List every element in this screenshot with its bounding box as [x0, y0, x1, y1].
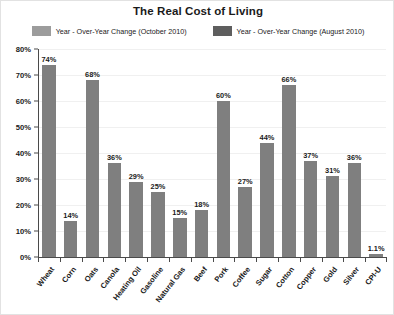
bar[interactable]: 60%	[217, 101, 231, 257]
x-tick-slot	[322, 258, 344, 262]
x-label-slot: Wheat	[38, 263, 60, 315]
bar-value-label: 74%	[41, 55, 56, 64]
legend-swatch-august	[213, 26, 232, 36]
x-axis-labels: WheatCornOatsCanolaHeating OilGasolineNa…	[38, 263, 387, 315]
x-tick-slot	[147, 258, 169, 262]
x-axis-label: CPI-U	[363, 265, 383, 287]
x-axis-tick-mark	[60, 258, 61, 262]
bar[interactable]: 31%	[326, 176, 340, 257]
y-axis-tick-label: 0%	[20, 253, 34, 262]
bar-value-label: 29%	[129, 172, 144, 181]
y-axis-tick: 80%	[16, 45, 38, 54]
x-label-slot: Beef	[191, 263, 213, 315]
y-axis-tick-label: 60%	[16, 97, 34, 106]
bar-value-label: 68%	[85, 70, 100, 79]
x-axis-tick-mark	[322, 258, 323, 262]
x-axis-label: Oats	[82, 265, 99, 284]
bar[interactable]: 44%	[260, 143, 274, 257]
bar-value-label: 25%	[151, 182, 166, 191]
bar[interactable]: 66%	[282, 85, 296, 257]
bar[interactable]: 37%	[304, 161, 318, 257]
bar-slot: 66%	[278, 49, 300, 257]
bar[interactable]: 15%	[173, 218, 187, 257]
x-axis-tick-mark	[82, 258, 83, 262]
bar-slot: 1.1%	[365, 49, 387, 257]
y-axis-tick: 60%	[16, 97, 38, 106]
x-axis-tick-mark	[38, 258, 39, 262]
x-label-slot: Pork	[213, 263, 235, 315]
chart-legend: Year - Over-Year Change (October 2010) Y…	[1, 26, 394, 36]
y-axis-tick: 20%	[16, 201, 38, 210]
bar-slot: 29%	[125, 49, 147, 257]
y-axis-tick-label: 20%	[16, 201, 34, 210]
x-axis-tick-mark	[169, 258, 170, 262]
x-label-slot: Sugar	[256, 263, 278, 315]
bar-slot: 14%	[60, 49, 82, 257]
x-axis-label: Wheat	[35, 265, 56, 288]
bar-slot: 44%	[256, 49, 278, 257]
x-tick-slot	[103, 258, 125, 262]
legend-label-october: Year - Over-Year Change (October 2010)	[56, 27, 187, 36]
bar[interactable]: 27%	[238, 187, 252, 257]
y-axis-tick-label: 40%	[16, 149, 34, 158]
x-axis-ticks	[38, 258, 387, 262]
bar[interactable]: 36%	[348, 163, 362, 257]
bar[interactable]: 74%	[42, 65, 56, 257]
legend-item-october[interactable]: Year - Over-Year Change (October 2010)	[32, 26, 187, 36]
bar[interactable]: 25%	[151, 192, 165, 257]
x-label-slot: Corn	[60, 263, 82, 315]
y-axis-tick-label: 80%	[16, 45, 34, 54]
x-axis-label: Sugar	[254, 265, 274, 288]
bar-value-label: 18%	[194, 200, 209, 209]
x-axis-label: Gold	[322, 265, 340, 284]
y-axis-tick: 70%	[16, 71, 38, 80]
bar-value-label: 1.1%	[368, 244, 385, 253]
bar[interactable]: 36%	[108, 163, 122, 257]
x-label-slot: Coffee	[234, 263, 256, 315]
bar[interactable]: 68%	[86, 80, 100, 257]
y-axis: 80%70%60%50%40%30%20%10%0%	[1, 49, 38, 258]
x-tick-slot	[60, 258, 82, 262]
chart-container: The Real Cost of Living Year - Over-Year…	[0, 0, 394, 315]
bar-slot: 37%	[300, 49, 322, 257]
x-axis-label: Coffee	[231, 265, 253, 289]
bar[interactable]: 14%	[64, 221, 78, 257]
y-axis-tick: 0%	[20, 253, 38, 262]
bar-value-label: 36%	[107, 153, 122, 162]
bar-value-label: 15%	[172, 208, 187, 217]
x-tick-slot	[256, 258, 278, 262]
bar-value-label: 31%	[325, 166, 340, 175]
bar-value-label: 44%	[260, 133, 275, 142]
bar[interactable]: 18%	[195, 210, 209, 257]
y-axis-tick: 30%	[16, 175, 38, 184]
bar[interactable]: 1.1%	[369, 254, 383, 257]
bar-slot: 15%	[169, 49, 191, 257]
bar-slot: 36%	[103, 49, 125, 257]
x-tick-end	[386, 258, 387, 262]
x-axis-tick-mark	[103, 258, 104, 262]
x-tick-slot	[234, 258, 256, 262]
x-tick-slot	[82, 258, 104, 262]
x-axis-label: Silver	[342, 265, 362, 287]
x-label-slot: Cotton	[278, 263, 300, 315]
y-axis-tick: 40%	[16, 149, 38, 158]
bar-slot: 25%	[147, 49, 169, 257]
bar-slot: 60%	[213, 49, 235, 257]
bar-slot: 68%	[82, 49, 104, 257]
bar[interactable]: 29%	[129, 182, 143, 257]
y-axis-tick-label: 30%	[16, 175, 34, 184]
x-axis-label: Cotton	[274, 265, 296, 290]
x-label-slot: Gold	[322, 263, 344, 315]
x-axis-tick-mark	[278, 258, 279, 262]
chart-title: The Real Cost of Living	[1, 5, 394, 17]
x-axis-tick-mark	[256, 258, 257, 262]
y-axis-tick-label: 50%	[16, 123, 34, 132]
legend-item-august[interactable]: Year - Over-Year Change (August 2010)	[213, 26, 365, 36]
x-axis-tick-mark	[365, 258, 366, 262]
x-axis-label: Corn	[60, 265, 78, 285]
x-tick-slot	[278, 258, 300, 262]
x-axis-tick-mark	[343, 258, 344, 262]
x-label-slot: Copper	[300, 263, 322, 315]
x-tick-slot	[125, 258, 147, 262]
bar-value-label: 27%	[238, 177, 253, 186]
